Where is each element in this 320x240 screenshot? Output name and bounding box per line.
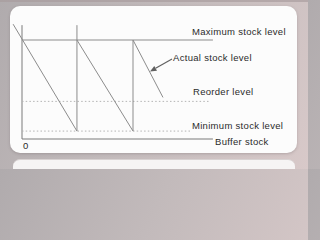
label-minimum-stock-level: Minimum stock level — [192, 120, 283, 131]
label-actual-stock-level: Actual stock level — [173, 52, 252, 63]
label-reorder-level: Reorder level — [193, 86, 253, 97]
page-below-card — [13, 159, 295, 169]
origin-tick-label: 0 — [23, 140, 29, 151]
actual-stock-arrow — [150, 59, 172, 72]
actual-stock-segment-4 — [133, 40, 163, 97]
chart-lines — [13, 24, 213, 139]
label-buffer-stock: Buffer stock — [215, 136, 269, 147]
actual-stock-segment-2 — [77, 40, 133, 131]
page-top-edge — [0, 0, 308, 2]
figure-card: Maximum stock level Actual stock level R… — [10, 6, 297, 153]
label-maximum-stock-level: Maximum stock level — [192, 26, 286, 37]
